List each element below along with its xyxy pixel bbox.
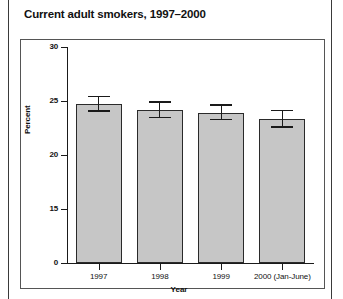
- bar: [137, 110, 183, 263]
- x-tick: [282, 263, 283, 270]
- x-axis-title: Year: [171, 285, 188, 294]
- error-bar: [259, 110, 305, 128]
- x-axis-line: [67, 263, 314, 264]
- chart-title: Current adult smokers, 1997–2000: [24, 8, 206, 20]
- y-tick: 0: [61, 263, 67, 264]
- x-tick-label: 2000 (Jan-June): [254, 272, 311, 281]
- error-bar-cap-top: [149, 101, 171, 103]
- error-bar-cap-bottom: [210, 119, 232, 121]
- x-tick-label: 1999: [212, 272, 229, 281]
- x-tick-label: 1997: [90, 272, 107, 281]
- y-tick-label: 0: [54, 258, 58, 267]
- y-tick-label: 15: [50, 204, 59, 213]
- error-bar-cap-top: [88, 96, 110, 98]
- y-tick: 15: [61, 209, 67, 210]
- x-tick: [221, 263, 222, 270]
- error-bar: [137, 101, 183, 118]
- bar: [198, 113, 244, 263]
- error-bar-cap-bottom: [271, 126, 293, 128]
- page-margin-rule-left: [8, 0, 9, 299]
- error-bar-cap-top: [271, 110, 293, 112]
- y-tick-label: 20: [50, 150, 59, 159]
- y-tick: 30: [61, 47, 67, 48]
- page-margin-rule-right: [331, 0, 332, 299]
- y-axis-title: Percent: [23, 105, 32, 134]
- x-tick: [160, 263, 161, 270]
- error-bar: [76, 96, 122, 112]
- y-axis-line: [67, 47, 68, 264]
- error-bar-line: [159, 101, 160, 118]
- error-bar-cap-bottom: [149, 117, 171, 119]
- y-tick-label: 30: [50, 42, 59, 51]
- x-tick: [99, 263, 100, 270]
- error-bar-cap-top: [210, 104, 232, 106]
- bar: [76, 104, 122, 263]
- bar: [259, 119, 305, 263]
- y-tick: 20: [61, 155, 67, 156]
- error-bar-cap-bottom: [88, 110, 110, 112]
- x-tick-label: 1998: [151, 272, 168, 281]
- error-bar: [198, 104, 244, 120]
- y-tick: 25: [61, 101, 67, 102]
- error-bar-line: [282, 110, 283, 128]
- y-tick-label: 25: [50, 96, 59, 105]
